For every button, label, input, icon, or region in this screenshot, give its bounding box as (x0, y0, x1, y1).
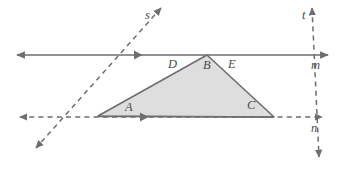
point-label-e: E (227, 57, 236, 71)
segment-ac-on-line-n (98, 117, 274, 118)
line-label-t: t (302, 8, 306, 22)
geometry-diagram: A B C D E m n s t (0, 0, 341, 171)
line-label-m: m (311, 58, 320, 72)
line-m-direction-tick (134, 51, 143, 60)
point-label-a: A (124, 100, 133, 114)
point-label-c: C (247, 98, 256, 112)
geometry-canvas: A B C D E m n s t (0, 0, 341, 171)
point-label-b: B (203, 58, 211, 72)
transversal-line-s (36, 8, 161, 148)
line-label-n: n (311, 121, 317, 135)
point-label-d: D (167, 57, 177, 71)
line-label-s: s (145, 8, 150, 22)
